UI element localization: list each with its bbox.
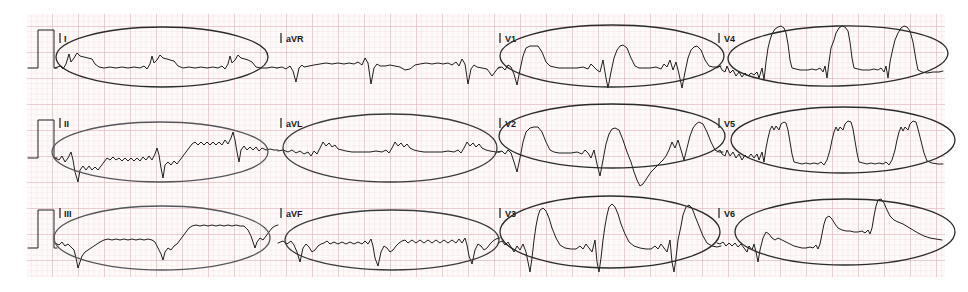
lead-label-aVR: aVR	[286, 34, 304, 44]
lead-label-II: II	[64, 119, 69, 129]
lead-label-III: III	[64, 209, 72, 219]
lead-label-V5: V5	[724, 119, 735, 129]
lead-label-V4: V4	[724, 34, 735, 44]
lead-label-aVF: aVF	[286, 209, 303, 219]
lead-label-V6: V6	[724, 209, 735, 219]
lead-label-aVL: aVL	[286, 119, 303, 129]
ecg-graph-paper	[27, 14, 945, 277]
ecg-canvas: IaVRV1V4IIaVLV2V5IIIaVFV3V6	[0, 0, 968, 292]
lead-label-I: I	[64, 34, 67, 44]
ecg-screenshot-root: IaVRV1V4IIaVLV2V5IIIaVFV3V6	[0, 0, 968, 292]
